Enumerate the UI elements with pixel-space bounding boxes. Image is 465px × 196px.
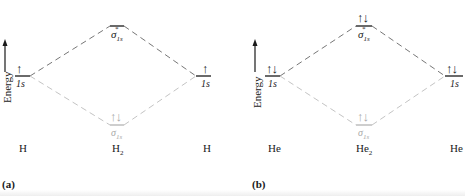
bonding-sub-b: 1s [363, 133, 369, 141]
molecule-name-b: He [356, 142, 369, 154]
bonding-orbital-label-a: σ1s [111, 128, 122, 141]
cropped-caption-band [0, 190, 465, 196]
energy-axis-label-b: Energy [251, 76, 263, 108]
panel-tag-b: (b) [252, 178, 265, 190]
right-orbital-label-b: 1s [450, 79, 459, 89]
left-atom-label-b: He [268, 143, 281, 154]
bonding-electrons-b: ↑↓ [357, 110, 368, 123]
energy-axis-label: Energy [1, 71, 13, 103]
right-electrons-b: ↑↓ [446, 62, 457, 75]
right-electrons-a: ↑ [202, 62, 209, 75]
antibonding-orbital-label-a: σ1s* [111, 28, 126, 43]
left-atom-label-a: H [19, 143, 27, 154]
left-electrons-a: ↑ [16, 62, 23, 75]
bonding-orbital-label-b: σ1s [358, 128, 369, 141]
molecule-label-b: He2 [356, 143, 372, 157]
right-atom-label-a: H [203, 143, 211, 154]
left-orbital-label-b: 1s [268, 79, 277, 89]
bonding-sub-a: 1s [116, 133, 122, 141]
molecule-name-a: H [112, 142, 120, 154]
left-electrons-b: ↑↓ [266, 62, 277, 75]
antibonding-orbital-label-b: σ1s* [358, 28, 373, 43]
panel-b-he2-diagram: Energy ↑↓ 1s ↑↓ 1s ↑↓ σ1s* ↑↓ σ1s He He2… [232, 0, 465, 196]
right-atom-label-b: He [450, 143, 463, 154]
mo-lines-b [232, 0, 465, 196]
molecule-label-a: H2 [112, 143, 123, 157]
antibonding-sup-a: * [115, 25, 119, 33]
antibonding-sup-b: * [362, 25, 366, 33]
right-orbital-label-a: 1s [201, 79, 210, 89]
panel-tag-a: (a) [2, 178, 15, 190]
antibonding-sub-b: 1s [363, 35, 369, 43]
bonding-electrons-a: ↑↓ [110, 110, 121, 123]
antibonding-sub-a: 1s [116, 35, 122, 43]
left-orbital-label-a: 1s [16, 79, 25, 89]
panel-a-h2-diagram: Energy ↑ 1s ↑ 1s σ1s* ↑↓ σ1s H H2 H (a) [0, 0, 232, 196]
antibonding-electrons-b: ↑↓ [357, 11, 368, 24]
molecule-sub-a: 2 [120, 149, 124, 157]
molecule-sub-b: 2 [369, 149, 373, 157]
